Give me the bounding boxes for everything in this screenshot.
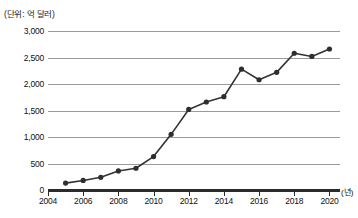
y-tick-label: 1,000 xyxy=(24,132,44,142)
data-point xyxy=(327,46,332,51)
data-point xyxy=(98,175,103,180)
series-markers xyxy=(63,46,332,185)
x-axis-labels: 200420062008201020122014201620182020 xyxy=(48,196,340,210)
y-tick-label: 2,500 xyxy=(24,53,44,63)
data-point xyxy=(151,154,156,159)
data-point xyxy=(186,107,191,112)
data-point xyxy=(204,99,209,104)
x-tick-label: 2012 xyxy=(180,196,198,206)
x-tick xyxy=(48,192,49,196)
chart-unit-label: (단위: 억 달러) xyxy=(4,7,55,19)
x-tick xyxy=(259,192,260,196)
x-tick-label: 2006 xyxy=(74,196,92,206)
x-tick-label: 2004 xyxy=(39,196,57,206)
y-tick-label: 0 xyxy=(39,185,44,195)
data-point xyxy=(116,168,121,173)
x-tick-label: 2018 xyxy=(285,196,303,206)
line-chart: (단위: 억 달러) 05001,0001,5002,0002,5003,000… xyxy=(0,0,358,218)
x-tick xyxy=(118,192,119,196)
x-axis-title: (년) xyxy=(341,186,353,197)
x-tick xyxy=(189,192,190,196)
x-tick xyxy=(329,192,330,196)
y-tick-label: 3,000 xyxy=(24,26,44,36)
data-point xyxy=(221,94,226,99)
y-axis-labels: 05001,0001,5002,0002,5003,000 xyxy=(0,31,44,190)
data-point xyxy=(274,70,279,75)
x-tick xyxy=(154,192,155,196)
series-line xyxy=(66,49,330,183)
y-tick-label: 2,000 xyxy=(24,79,44,89)
y-tick-label: 500 xyxy=(30,159,44,169)
data-point xyxy=(81,178,86,183)
x-tick xyxy=(294,192,295,196)
y-tick-label: 1,500 xyxy=(24,106,44,116)
data-point xyxy=(169,132,174,137)
x-tick-label: 2014 xyxy=(215,196,233,206)
x-tick-label: 2010 xyxy=(144,196,162,206)
data-point xyxy=(309,54,314,59)
series-svg xyxy=(48,31,340,190)
data-point xyxy=(63,181,68,186)
data-point xyxy=(239,67,244,72)
plot-area xyxy=(48,31,340,190)
x-tick-label: 2020 xyxy=(320,196,338,206)
data-point xyxy=(133,166,138,171)
x-tick-label: 2008 xyxy=(109,196,127,206)
x-tick-label: 2016 xyxy=(250,196,268,206)
x-tick xyxy=(83,192,84,196)
data-point xyxy=(256,77,261,82)
x-tick xyxy=(224,192,225,196)
data-point xyxy=(292,51,297,56)
